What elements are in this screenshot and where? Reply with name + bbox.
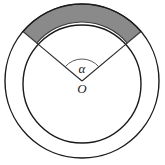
angle-label-alpha: α [79,61,87,76]
center-label-o: O [77,81,87,96]
annulus-diagram: α O [0,0,165,165]
figure-canvas: α O [0,0,165,165]
